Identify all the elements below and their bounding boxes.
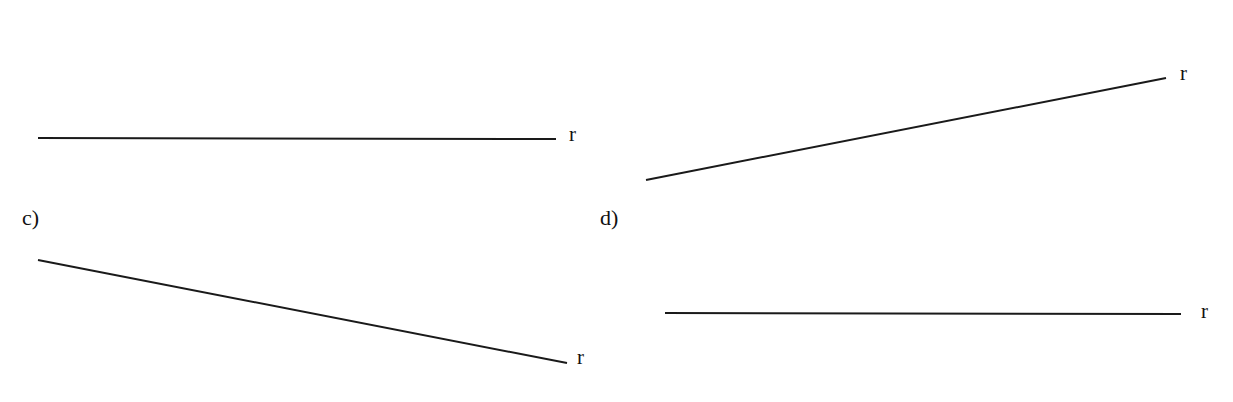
panel-label-c: c) — [22, 207, 39, 229]
panel-label-d: d) — [600, 207, 618, 229]
diagram-canvas — [0, 0, 1233, 402]
line-c — [38, 260, 567, 363]
line-label-r-d: r — [1201, 301, 1208, 322]
line-a — [38, 138, 556, 139]
line-label-r-a: r — [569, 124, 576, 145]
line-b — [646, 78, 1166, 180]
line-label-r-c: r — [577, 347, 584, 368]
line-label-r-b: r — [1180, 63, 1187, 84]
line-d — [665, 313, 1181, 314]
